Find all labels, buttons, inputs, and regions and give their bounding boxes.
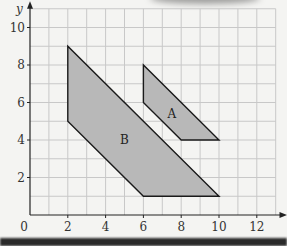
shape-label-b: B [120, 133, 129, 147]
x-axis-arrow-icon [279, 212, 287, 218]
shape-label-a: A [166, 107, 176, 121]
page-shadow-bottom [0, 238, 287, 246]
x-tick-label: 10 [211, 220, 226, 234]
coordinate-grid-chart: AB024681012246810xy [0, 0, 287, 246]
x-tick-label: 2 [64, 220, 72, 234]
x-tick-label: 6 [140, 220, 148, 234]
x-tick-label: 0 [20, 220, 28, 234]
y-axis-arrow-icon [27, 1, 33, 9]
x-tick-label: 8 [177, 220, 185, 234]
x-tick-label: 12 [249, 220, 264, 234]
y-tick-label: 6 [17, 96, 25, 110]
y-tick-label: 8 [17, 58, 25, 72]
x-tick-label: 4 [102, 220, 110, 234]
y-tick-label: 2 [17, 171, 25, 185]
y-tick-label: 4 [17, 133, 25, 147]
y-axis-label: y [15, 2, 23, 16]
y-tick-label: 10 [10, 21, 25, 35]
